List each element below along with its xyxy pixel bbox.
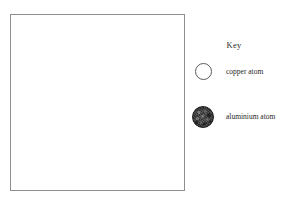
filled-circle-icon [192, 106, 214, 128]
aluminium-atom-swatch-wrap [188, 106, 218, 128]
key-entry-label-aluminium: aluminium atom [226, 113, 275, 121]
key-entry-label-copper: copper atom [226, 68, 263, 76]
key-entry-aluminium-atom: aluminium atom [188, 106, 275, 128]
copper-atom-swatch-wrap [188, 63, 218, 80]
key-title: Key [188, 40, 280, 50]
key-entry-copper-atom: copper atom [188, 63, 263, 80]
diagram-area [10, 14, 185, 191]
key-legend: Key copper atom aluminium atom [188, 36, 301, 142]
open-circle-icon [195, 63, 212, 80]
